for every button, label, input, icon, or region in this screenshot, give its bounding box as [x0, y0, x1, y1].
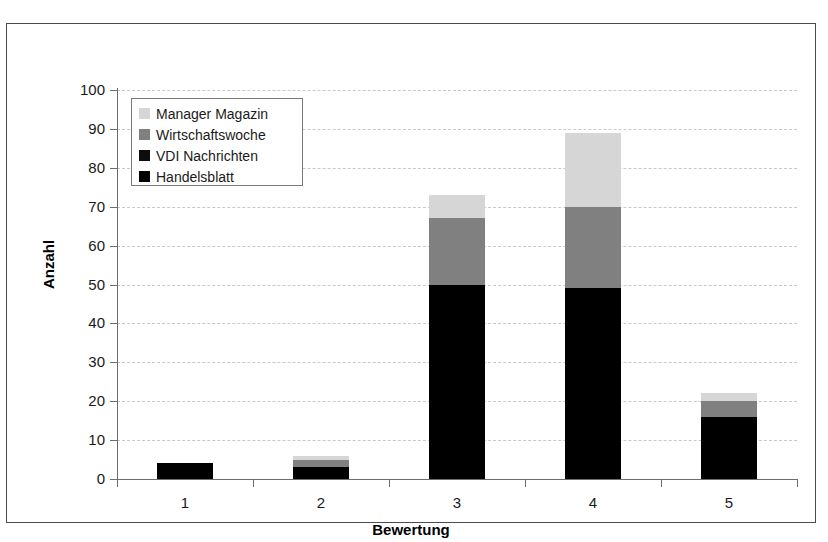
- y-axis-tick: [110, 285, 117, 286]
- y-axis-tick-label: 60: [65, 238, 105, 253]
- x-axis-tick-label: 5: [689, 494, 769, 511]
- bar-segment: [293, 460, 349, 468]
- legend-swatch-icon: [139, 108, 150, 119]
- y-axis-tick: [110, 207, 117, 208]
- y-axis-tick-label: 90: [65, 121, 105, 136]
- legend-item: Wirtschaftswoche: [139, 124, 297, 145]
- chart-frame: 0102030405060708090100 12345 Anzahl Bewe…: [6, 23, 816, 523]
- y-axis-tick-label: 30: [65, 354, 105, 369]
- bar-segment: [157, 463, 213, 479]
- legend-swatch-icon: [139, 129, 150, 140]
- bar-segment: [565, 288, 621, 479]
- bar-segment: [293, 467, 349, 479]
- chart-legend: Manager MagazinWirtschaftswocheVDI Nachr…: [131, 98, 303, 186]
- y-axis-title: Anzahl: [40, 210, 57, 320]
- bar-segment: [429, 285, 485, 480]
- y-axis-tick: [110, 362, 117, 363]
- y-axis-tick-label: 40: [65, 315, 105, 330]
- y-axis-tick: [110, 323, 117, 324]
- x-axis-tick-label: 1: [145, 494, 225, 511]
- y-axis-tick: [110, 479, 117, 480]
- legend-item-label: Handelsblatt: [156, 170, 234, 184]
- y-axis-tick-label: 50: [65, 277, 105, 292]
- legend-item: Manager Magazin: [139, 103, 297, 124]
- y-axis-tick: [110, 168, 117, 169]
- x-axis-tick: [661, 479, 662, 487]
- y-axis-tick: [110, 401, 117, 402]
- bar-group: [701, 90, 757, 479]
- y-axis-tick-label: 10: [65, 432, 105, 447]
- bar-segment: [701, 393, 757, 401]
- x-axis-tick: [525, 479, 526, 487]
- y-axis-tick: [110, 129, 117, 130]
- y-axis-tick-label: 80: [65, 160, 105, 175]
- legend-item-label: Wirtschaftswoche: [156, 128, 266, 142]
- y-axis-tick-label: 20: [65, 393, 105, 408]
- y-axis-tick: [110, 246, 117, 247]
- legend-swatch-icon: [139, 171, 150, 182]
- y-axis-tick: [110, 90, 117, 91]
- x-axis-tick: [389, 479, 390, 487]
- legend-swatch-icon: [139, 150, 150, 161]
- legend-item: Handelsblatt: [139, 166, 297, 187]
- bar-segment: [429, 195, 485, 218]
- bar-segment: [429, 218, 485, 284]
- y-axis-tick: [110, 440, 117, 441]
- y-axis-tick-label: 0: [65, 471, 105, 486]
- x-axis-tick-label: 3: [417, 494, 497, 511]
- x-axis-tick: [253, 479, 254, 487]
- x-axis-line: [116, 479, 798, 480]
- y-axis-tick-label: 100: [65, 82, 105, 97]
- legend-item-label: Manager Magazin: [156, 107, 268, 121]
- y-axis-tick-label: 70: [65, 199, 105, 214]
- bar-segment: [701, 417, 757, 479]
- bar-segment: [293, 456, 349, 460]
- x-axis-tick: [797, 479, 798, 487]
- x-axis-tick-label: 2: [281, 494, 361, 511]
- bar-segment: [701, 401, 757, 417]
- x-axis-title: Bewertung: [7, 521, 815, 538]
- bar-segment: [565, 133, 621, 207]
- bar-group: [429, 90, 485, 479]
- x-axis-tick-label: 4: [553, 494, 633, 511]
- bar-segment: [565, 207, 621, 289]
- legend-item-label: VDI Nachrichten: [156, 149, 258, 163]
- x-axis-tick: [117, 479, 118, 487]
- bar-group: [565, 90, 621, 479]
- legend-item: VDI Nachrichten: [139, 145, 297, 166]
